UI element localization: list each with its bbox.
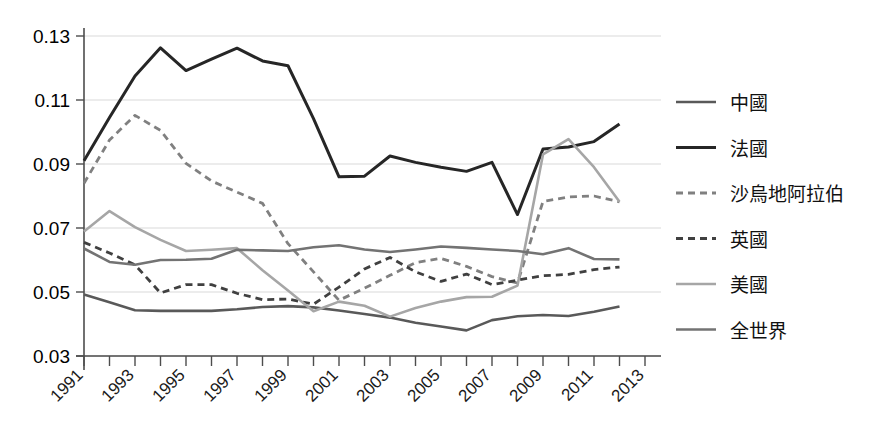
y-tick-label: 0.13 xyxy=(33,26,70,47)
y-tick-label: 0.07 xyxy=(33,218,70,239)
axes xyxy=(76,28,661,370)
x-tick-label: 2011 xyxy=(558,365,597,404)
x-tick-label: 2003 xyxy=(353,365,393,405)
series-line-2 xyxy=(84,115,620,300)
y-tick-label: 0.03 xyxy=(33,346,70,367)
y-tick-label: 0.09 xyxy=(33,154,70,175)
x-axis-tick-marks xyxy=(84,356,645,366)
legend-label-1: 法國 xyxy=(730,139,768,160)
x-tick-label: 1999 xyxy=(251,365,291,405)
x-tick-label: 1993 xyxy=(98,365,138,405)
data-series-group xyxy=(84,48,620,331)
x-tick-label: 2009 xyxy=(506,365,546,405)
legend-label-5: 全世界 xyxy=(730,321,787,342)
legend-label-0: 中國 xyxy=(730,93,768,114)
x-tick-label: 1995 xyxy=(149,365,189,405)
series-line-3 xyxy=(84,242,620,304)
x-axis-tick-labels: 1991199319951997199920012003200520072009… xyxy=(47,365,648,405)
x-tick-label: 2007 xyxy=(455,365,495,405)
series-line-1 xyxy=(84,48,620,215)
y-tick-label: 0.05 xyxy=(33,282,70,303)
y-tick-label: 0.11 xyxy=(34,90,70,111)
series-line-5 xyxy=(84,245,620,265)
chart-canvas: 0.030.050.070.090.110.13 199119931995199… xyxy=(0,0,872,438)
chart-legend: 中國法國沙烏地阿拉伯英國美國全世界 xyxy=(676,93,844,342)
x-tick-label: 1991 xyxy=(47,365,87,405)
x-tick-label: 2001 xyxy=(302,365,342,405)
x-tick-label: 2005 xyxy=(404,365,444,405)
legend-label-2: 沙烏地阿拉伯 xyxy=(730,184,844,205)
legend-label-3: 英國 xyxy=(730,230,768,251)
x-tick-label: 1997 xyxy=(200,365,240,405)
line-chart: 0.030.050.070.090.110.13 199119931995199… xyxy=(0,0,872,438)
legend-label-4: 美國 xyxy=(730,275,768,296)
y-axis-tick-labels: 0.030.050.070.090.110.13 xyxy=(33,26,84,367)
x-tick-label: 2013 xyxy=(608,365,648,405)
series-line-0 xyxy=(84,295,620,331)
